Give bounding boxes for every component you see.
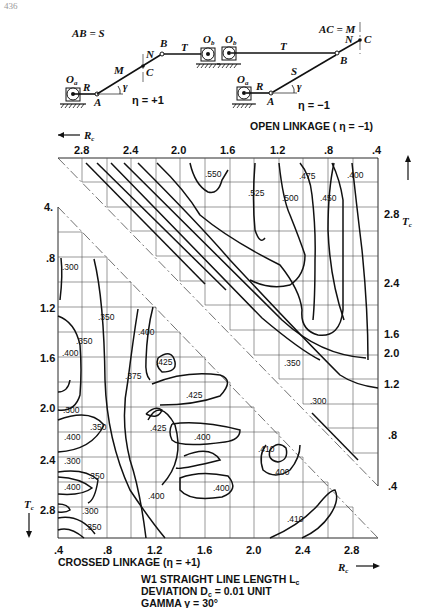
contour-label: .350 xyxy=(76,336,93,346)
label-ob: Ob xyxy=(203,33,215,47)
equation-ab-s: AB = S xyxy=(71,27,105,39)
crossed-linkage-title: CROSSED LINKAGE (η = +1) xyxy=(58,556,200,568)
contour-label: .300 xyxy=(62,262,79,272)
contour-label: .500 xyxy=(282,193,299,203)
contour-label: .450 xyxy=(320,193,337,203)
bottom-axis-arrow-icon xyxy=(356,563,380,569)
contour-label: .410 xyxy=(258,444,275,454)
label-b: B xyxy=(159,37,167,49)
label-b: B xyxy=(339,54,347,66)
contour-label: .350 xyxy=(88,471,105,481)
contour-label: .425 xyxy=(186,390,203,400)
tick: 2.8 xyxy=(74,144,89,156)
label-c: C xyxy=(146,66,154,78)
contour-label: .400 xyxy=(62,348,79,358)
top-axis-arrow-icon xyxy=(58,132,80,138)
label-oa: Oa xyxy=(66,73,78,87)
label-gamma: γ xyxy=(123,80,128,92)
contour-label: .400 xyxy=(213,483,230,493)
right-axis-label: Tc xyxy=(402,215,412,229)
contour-label: .400 xyxy=(273,467,290,477)
tick: 2.4 xyxy=(295,544,311,556)
tick: 2.0 xyxy=(171,144,186,156)
contour-label: .550 xyxy=(205,169,222,179)
tick: 1.6 xyxy=(197,544,212,556)
tick: 2.0 xyxy=(384,347,399,359)
tick: 2.4 xyxy=(123,144,139,156)
contour-label: .525 xyxy=(248,188,265,198)
contour-label: .300 xyxy=(310,396,327,406)
tick: 2.8 xyxy=(384,208,399,220)
label-oa: Oa xyxy=(237,73,249,87)
contour-label: .300 xyxy=(82,506,99,516)
tick: 2.4 xyxy=(384,277,400,289)
tick: 1.2 xyxy=(384,378,399,390)
label-r: R xyxy=(255,80,263,92)
label-n: N xyxy=(344,33,354,45)
tick: 1.2 xyxy=(270,144,285,156)
tick: 1.6 xyxy=(220,144,235,156)
tick: .8 xyxy=(388,429,397,441)
top-axis-ticks: 2.8 2.4 2.0 1.6 1.2 .8 .4 xyxy=(74,144,382,156)
label-m: M xyxy=(113,64,125,76)
contour-label: .400 xyxy=(64,432,81,442)
tick: 1.2 xyxy=(40,302,55,314)
tick: .4 xyxy=(54,544,64,556)
contour-label: .400 xyxy=(64,482,81,492)
open-contours: .550 .525 .500 .475 .450 .400 .350 .300 xyxy=(86,163,378,460)
tick: .8 xyxy=(46,252,55,264)
ground-pivot-ob-icon xyxy=(217,47,241,68)
mechanism-crossed-diagram: AB = S Oa R A γ M C N B T xyxy=(60,27,220,108)
contour-label: .425 xyxy=(156,357,173,367)
contour-label: .350 xyxy=(85,522,102,532)
tick: .8 xyxy=(324,144,333,156)
label-r: R xyxy=(82,81,90,93)
eta-minus-one: η = −1 xyxy=(298,99,330,111)
figure: 436 AB = S Oa R A γ M C N B T xyxy=(0,0,434,608)
open-linkage-title: OPEN LINKAGE ( η = −1) xyxy=(250,120,373,132)
contour-label: .350 xyxy=(90,422,107,432)
right-axis-arrow-icon xyxy=(405,155,411,180)
bottom-axis-label: Rc xyxy=(337,561,348,575)
tick: .4 xyxy=(372,144,382,156)
tick: .4 xyxy=(388,480,398,492)
contour-label: .400 xyxy=(148,491,165,501)
right-tick-1-6: 1.6 xyxy=(384,328,399,340)
contour-label: .300 xyxy=(64,456,81,466)
left-axis-arrow-icon xyxy=(26,513,32,538)
label-gamma: γ xyxy=(297,80,302,92)
tick: 2.8 xyxy=(40,504,55,516)
contour-label: .300 xyxy=(63,405,80,415)
label-t: T xyxy=(181,41,189,53)
tick: 2.4 xyxy=(40,454,56,466)
label-n: N xyxy=(145,48,155,60)
mechanism-open-diagram: AC = M Ob T B N C Oa R A xyxy=(217,22,372,111)
caption-line-3: GAMMA γ = 30° xyxy=(141,597,218,608)
figure-caption: W1 STRAIGHT LINE LENGTH Lc DEVIATION Dc … xyxy=(141,573,300,608)
contour-label: .400 xyxy=(138,327,155,337)
contour-label: .410 xyxy=(287,514,304,524)
bottom-axis-ticks: .4 .8 1.2 1.6 2.0 2.4 2.8 xyxy=(54,544,359,556)
contour-label: .400 xyxy=(347,170,364,180)
label-a: A xyxy=(266,95,274,107)
left-axis-label: Tc xyxy=(24,498,34,512)
ground-pivot-oa-icon xyxy=(232,87,256,108)
contour-label: .375 xyxy=(125,371,142,381)
top-axis-label: Rc xyxy=(83,129,94,143)
left-axis-ticks: 4. .8 1.2 1.6 2.0 2.4 2.8 xyxy=(40,201,56,516)
tick: 1.2 xyxy=(147,544,162,556)
tick: 1.6 xyxy=(40,352,55,364)
tick: .8 xyxy=(103,544,112,556)
right-axis-ticks: 2.8 2.4 2.0 1.6 1.2 .8 .4 xyxy=(384,208,400,492)
contour-label: .350 xyxy=(284,358,301,368)
tick: 2.8 xyxy=(344,544,359,556)
tick: 2.0 xyxy=(40,402,55,414)
tick: 2.0 xyxy=(246,544,261,556)
label-ob: Ob xyxy=(225,33,237,47)
page-number: 436 xyxy=(4,1,18,11)
contour-label: .350 xyxy=(98,312,115,322)
label-c: C xyxy=(364,33,372,45)
label-a: A xyxy=(93,96,101,108)
contour-label: .425 xyxy=(150,423,167,433)
contour-label: .400 xyxy=(194,432,211,442)
